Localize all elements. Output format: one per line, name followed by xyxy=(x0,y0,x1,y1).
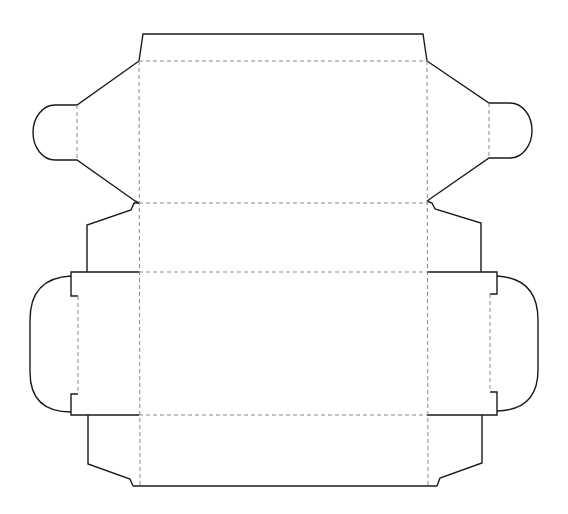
fold-lines xyxy=(77,61,490,486)
fold-right-vertical xyxy=(427,61,428,486)
right-side-tab-outline xyxy=(427,272,538,415)
top-tuck-flap-outline xyxy=(139,34,427,61)
fold-left-vertical xyxy=(139,61,140,486)
right-dust-flap-outline xyxy=(427,61,532,201)
right-lower-side-flap-outline xyxy=(437,415,482,486)
left-lower-side-flap-outline xyxy=(88,415,133,486)
cut-lines xyxy=(30,34,538,486)
left-upper-side-flap-outline xyxy=(87,203,139,272)
left-dust-flap-outline xyxy=(33,61,139,203)
right-upper-side-flap-outline xyxy=(427,201,481,272)
box-dieline-diagram xyxy=(0,0,568,514)
left-side-tab-outline xyxy=(30,272,139,415)
